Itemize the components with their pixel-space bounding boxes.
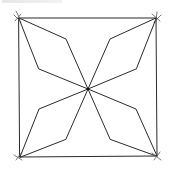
square-frame [19,18,157,157]
corner-ticks [14,11,161,160]
center-point [87,88,90,91]
petal-top-right [88,18,156,89]
petal-bottom-right [88,89,157,156]
pinwheel-diagram [0,0,171,173]
petal-top-left [19,18,88,89]
petal-bottom-left [20,89,88,157]
